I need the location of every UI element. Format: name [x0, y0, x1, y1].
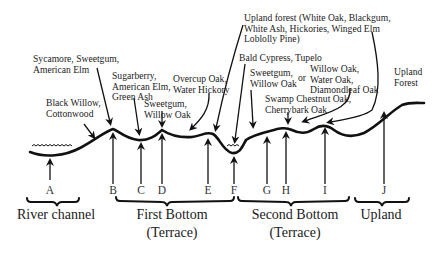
letter-d: D	[158, 184, 166, 196]
label-overcup-oak: Overcup Oak, Water Hickory	[173, 74, 230, 95]
label-upland-forest-mix: Upland forest (White Oak, Blackgum, Whit…	[244, 13, 391, 45]
zone-braces	[27, 197, 409, 206]
letter-b: B	[109, 184, 117, 196]
letter-c: C	[137, 184, 145, 196]
letter-f: F	[231, 184, 237, 196]
label-willow-water-diamondleaf-oak: Willow Oak, Water Oak, Diamondleaf Oak	[310, 64, 378, 96]
swamp-water-icon	[227, 145, 239, 147]
letter-h: H	[282, 184, 290, 196]
zone-label: River channel	[17, 207, 95, 223]
letter-e: E	[204, 184, 211, 196]
zone-label: Second Bottom	[252, 207, 339, 223]
zone-river-channel: River channel	[17, 207, 95, 223]
label-black-willow: Black Willow, Cottonwood	[46, 98, 101, 119]
label-sweetgum-willow-oak-1: Sweetgum, Willow Oak	[144, 99, 191, 120]
label-sycamore: Sycamore, Sweetgum, American Elm	[33, 54, 119, 75]
label-bald-cypress: Bald Cypress, Tupelo	[239, 53, 322, 64]
letter-a: A	[46, 184, 54, 196]
zone-label: First Bottom	[136, 207, 207, 223]
letter-i: I	[323, 184, 327, 196]
label-swamp-chestnut-oak: Swamp Chestnut Oak, Cherrybark Oak	[265, 94, 351, 115]
river-water-icon	[32, 145, 72, 147]
label-sweetgum-willow-oak-2: Sweetgum, Willow Oak	[250, 68, 297, 89]
label-upland-forest: Upland Forest	[394, 67, 422, 88]
zone-label: Upland	[360, 207, 401, 223]
zone-second-bottom: Second Bottom (Terrace)	[252, 207, 339, 241]
letter-j: J	[382, 184, 386, 196]
zone-sublabel: (Terrace)	[136, 225, 207, 241]
zone-sublabel: (Terrace)	[252, 225, 339, 241]
label-or: or	[298, 73, 306, 84]
zone-first-bottom: First Bottom (Terrace)	[136, 207, 207, 241]
letter-g: G	[263, 184, 271, 196]
zone-upland: Upland	[360, 207, 401, 223]
